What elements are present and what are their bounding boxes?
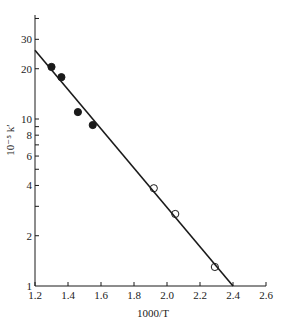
- y-tick-label: 2: [27, 230, 33, 242]
- x-axis-title: 1000/T: [137, 307, 169, 319]
- y-tick-label: 10: [21, 113, 33, 125]
- x-tick-label: 1.4: [61, 289, 75, 301]
- plot-area: [35, 50, 233, 286]
- axes: 1.21.41.61.82.02.22.42.612468102030: [21, 15, 273, 301]
- y-tick-label: 4: [27, 179, 33, 191]
- arrhenius-chart: 1.21.41.61.82.02.22.42.612468102030 1000…: [0, 0, 283, 330]
- y-tick-label: 6: [27, 150, 33, 162]
- x-tick-label: 2.0: [160, 289, 174, 301]
- y-axis-title: 10⁻⁵ k′: [4, 124, 16, 155]
- x-tick-label: 1.8: [127, 289, 141, 301]
- fit-line: [35, 50, 233, 286]
- x-tick-label: 2.2: [193, 289, 207, 301]
- chart-canvas: 1.21.41.61.82.02.22.42.612468102030 1000…: [0, 0, 283, 330]
- x-tick-label: 1.6: [94, 289, 108, 301]
- y-tick-label: 8: [27, 129, 33, 141]
- y-tick-label: 1: [27, 280, 33, 292]
- y-tick-label: 30: [21, 33, 33, 45]
- filled-data-point: [74, 108, 81, 115]
- y-tick-label: 20: [21, 63, 33, 75]
- x-tick-label: 2.6: [259, 289, 273, 301]
- x-tick-label: 2.4: [226, 289, 240, 301]
